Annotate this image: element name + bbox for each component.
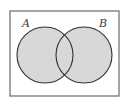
set-b-label: B	[98, 17, 107, 30]
venn-diagram: A B	[0, 0, 128, 102]
set-a-label: A	[21, 17, 30, 30]
